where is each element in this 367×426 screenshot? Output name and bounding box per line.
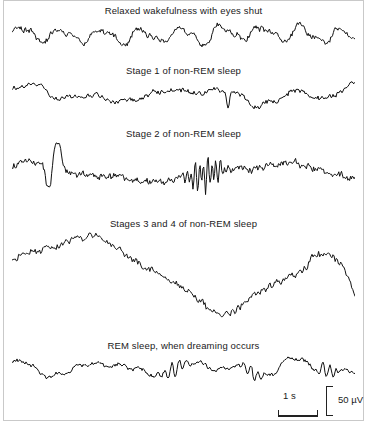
trace-label-stages-3-4-nrem: Stages 3 and 4 of non-REM sleep bbox=[0, 218, 367, 229]
voltage-scalebar-rule bbox=[326, 386, 333, 416]
trace-label-relaxed-wakefulness: Relaxed wakefulness with eyes shut bbox=[0, 5, 367, 16]
eeg-sleep-stages-figure: Relaxed wakefulness with eyes shutStage … bbox=[0, 0, 367, 426]
time-scalebar-rule bbox=[278, 410, 318, 417]
eeg-trace-stage-2-nrem bbox=[12, 142, 355, 204]
eeg-trace-stage-1-nrem bbox=[12, 78, 355, 112]
eeg-trace-stages-3-4-nrem bbox=[12, 232, 355, 320]
voltage-scalebar-label: 50 µV bbox=[338, 394, 363, 405]
trace-label-stage-1-nrem: Stage 1 of non-REM sleep bbox=[0, 65, 367, 76]
trace-label-rem-sleep: REM sleep, when dreaming occurs bbox=[0, 340, 367, 351]
eeg-trace-rem-sleep bbox=[12, 352, 355, 384]
time-scalebar: 1 s bbox=[276, 386, 322, 420]
trace-label-stage-2-nrem: Stage 2 of non-REM sleep bbox=[0, 128, 367, 139]
time-scalebar-label: 1 s bbox=[283, 390, 296, 401]
calibration-scalebar: 1 s 50 µV bbox=[276, 386, 362, 422]
eeg-trace-relaxed-wakefulness bbox=[12, 18, 355, 52]
voltage-scalebar: 50 µV bbox=[324, 384, 364, 420]
